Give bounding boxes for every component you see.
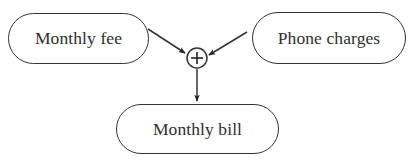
arrow-phone-to-sum	[209, 32, 247, 55]
node-monthly-bill: Monthly bill	[116, 104, 279, 154]
node-phone-charges: Phone charges	[252, 12, 406, 64]
arrow-fee-to-sum	[148, 29, 185, 53]
diagram-canvas: Monthly fee Phone charges Monthly bill	[0, 0, 409, 161]
sum-junction-icon	[187, 48, 207, 68]
node-label: Monthly bill	[153, 119, 242, 140]
node-label: Monthly fee	[35, 28, 122, 49]
node-label: Phone charges	[278, 28, 381, 49]
node-monthly-fee: Monthly fee	[8, 13, 149, 64]
